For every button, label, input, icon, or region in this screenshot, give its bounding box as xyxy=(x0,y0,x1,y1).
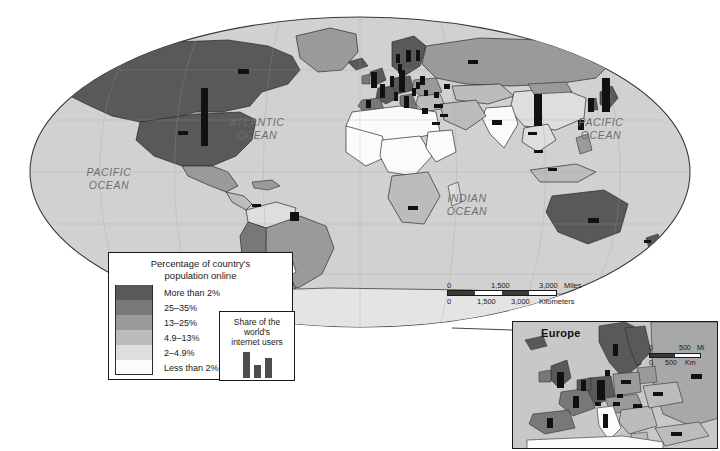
inset-bar-spain xyxy=(547,418,553,428)
share-bar-japan xyxy=(602,78,610,112)
inset-title: Europe xyxy=(541,327,581,339)
share-bar-france xyxy=(380,84,385,98)
inset-bar-italy xyxy=(603,414,608,428)
share-bar-israel xyxy=(440,114,448,117)
share-bar-korea xyxy=(588,98,594,112)
inset-mi-unit: Mi xyxy=(697,344,704,351)
share-bar-turkey xyxy=(434,104,443,108)
share-bar-denmark xyxy=(398,64,402,73)
share-legend-bars xyxy=(220,352,294,378)
europe-inset-svg xyxy=(513,322,718,449)
inset-bar-russia xyxy=(691,374,702,379)
inset-bar-turkey xyxy=(671,432,682,436)
scalebar-km-tick-2: 3,000 xyxy=(511,297,530,306)
inset-mi-tick-1: 500 xyxy=(679,344,691,351)
legend-swatch-3 xyxy=(115,330,153,345)
scalebar-mi-tick-1: 1,500 xyxy=(491,281,510,290)
share-bar-netherlands xyxy=(390,76,394,87)
share-bar-brazil xyxy=(290,212,299,221)
legend-label-2: 13–25% xyxy=(164,318,197,328)
share-bar-united-states xyxy=(201,88,208,146)
legend-label-4: 2–4.9% xyxy=(164,348,195,358)
scalebar-bar xyxy=(447,290,557,296)
inset-bar-ukraine xyxy=(653,392,663,396)
inset-bar-denmark xyxy=(605,370,610,376)
share-bar-south-africa xyxy=(408,206,418,210)
map-scalebar: 0 1,500 3,000 Miles 0 1,500 3,000 Kilome… xyxy=(447,281,571,306)
scalebar-seg-2 xyxy=(475,291,502,295)
inset-scale-seg-1 xyxy=(650,354,675,357)
scalebar-km-unit: Kilometers xyxy=(539,297,574,306)
inset-bar-sweden xyxy=(613,344,618,356)
scalebar-km-ticks: 0 1,500 3,000 Kilometers xyxy=(447,297,571,306)
share-bar-india xyxy=(492,120,502,125)
country-mongolia xyxy=(528,82,572,94)
share-bar-australia xyxy=(588,218,599,223)
share-of-users-legend: Share of the world's internet users xyxy=(219,311,295,381)
share-bar-ukraine xyxy=(444,84,450,89)
legend-swatch-1 xyxy=(115,300,153,315)
share-bar-colombia xyxy=(252,204,261,207)
legend-title: Percentage of country's population onlin… xyxy=(115,258,286,281)
share-bar-canada xyxy=(238,69,249,74)
share-bar-greece xyxy=(422,108,428,114)
inset-leader-line xyxy=(452,328,512,330)
scalebar-seg-1 xyxy=(448,291,475,295)
scalebar-km-tick-1: 1,500 xyxy=(477,297,496,306)
share-bar-austria xyxy=(412,88,416,96)
legend-label-0: More than 2% xyxy=(164,288,220,298)
scalebar-mi-tick-0: 0 xyxy=(447,281,451,290)
share-bar-norway xyxy=(396,54,400,63)
scalebar-seg-3 xyxy=(502,291,529,295)
share-bar-new-zealand xyxy=(644,240,651,243)
share-bar-indonesia xyxy=(548,168,557,171)
legend-label-5: Less than 2% xyxy=(164,363,219,373)
legend-swatch-2 xyxy=(115,315,153,330)
share-bar-china xyxy=(534,94,542,126)
share-bar-finland xyxy=(416,50,420,61)
share-bar-romania xyxy=(434,92,439,98)
inset-scalebar-mi-ticks: 0 500 Mi xyxy=(649,344,711,353)
share-legend-bar-2 xyxy=(254,365,261,378)
inset-scalebar-km-ticks: 0 500 Km xyxy=(649,359,711,368)
share-bar-taiwan xyxy=(578,120,584,130)
inset-scale-seg-2 xyxy=(675,354,700,357)
scalebar-seg-4 xyxy=(529,291,556,295)
inset-bar-france xyxy=(573,396,579,408)
share-bar-italy xyxy=(404,96,409,108)
legend-swatch-4 xyxy=(115,345,153,360)
inset-mi-tick-0: 0 xyxy=(649,344,653,351)
scalebar-mi-tick-2: 3,000 xyxy=(539,281,558,290)
share-bar-united-kingdom xyxy=(371,72,377,88)
inset-country-ireland xyxy=(539,370,551,382)
inset-bar-germany xyxy=(597,380,605,400)
share-bar-poland xyxy=(420,76,425,85)
inset-bar-switzerland xyxy=(595,402,601,406)
share-bar-switzerland xyxy=(394,92,398,101)
inset-scalebar: 0 500 Mi 0 500 Km xyxy=(649,344,711,368)
legend-label-1: 25–35% xyxy=(164,303,197,313)
scalebar-km-tick-0: 0 xyxy=(447,297,451,306)
share-bar-hungary xyxy=(424,90,428,96)
share-legend-bar-1 xyxy=(243,352,250,378)
share-bar-thailand xyxy=(528,132,537,135)
share-legend-bar-3 xyxy=(265,358,272,378)
inset-bar-czech xyxy=(617,394,623,398)
legend-row-0: More than 2% xyxy=(115,285,286,300)
scalebar-miles-ticks: 0 1,500 3,000 Miles xyxy=(447,281,571,290)
share-bar-germany xyxy=(399,70,405,92)
inset-bar-poland xyxy=(621,380,631,384)
inset-bar-united-kingdom xyxy=(557,372,564,388)
share-bar-spain xyxy=(366,100,371,108)
inset-km-tick-1: 500 xyxy=(665,359,677,366)
map-page: PACIFIC OCEAN ATLANTIC OCEAN INDIAN OCEA… xyxy=(0,0,720,451)
inset-bar-romania xyxy=(633,404,642,408)
inset-km-unit: Km xyxy=(685,359,696,366)
share-bar-malaysia xyxy=(534,150,543,153)
share-bar-egypt xyxy=(432,122,440,125)
share-bar-russia xyxy=(468,60,478,64)
country-russia xyxy=(422,38,612,86)
inset-scalebar-bar xyxy=(649,353,701,358)
share-bar-mexico xyxy=(178,131,188,135)
country-ireland xyxy=(362,74,370,84)
